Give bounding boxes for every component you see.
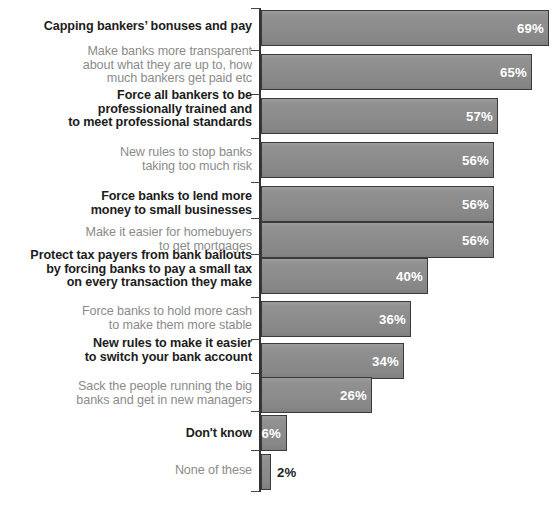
bar-value-label: 26% [340, 389, 366, 402]
category-label: Capping bankers’ bonuses and pay [0, 20, 252, 34]
bar-value-label: 56% [462, 154, 488, 167]
bar-value-label: 69% [517, 22, 543, 35]
category-label: Force banks to lend more money to small … [0, 190, 252, 217]
bar-chart: Capping bankers’ bonuses and pay69%Make … [0, 0, 558, 508]
category-label: Don't know [0, 427, 252, 441]
category-label: None of these [0, 464, 252, 478]
bar-value-label: 36% [379, 313, 405, 326]
bar-value-label: 40% [396, 270, 422, 283]
category-label: Protect tax payers from bank bailouts by… [0, 249, 252, 290]
category-label: New rules to stop banks taking too much … [0, 146, 252, 173]
bar [261, 142, 494, 178]
bar-value-label: 56% [462, 234, 488, 247]
bar-rows: Capping bankers’ bonuses and pay69%Make … [0, 0, 558, 508]
category-label: Force banks to hold more cash to make th… [0, 305, 252, 332]
bar-value-label: 57% [466, 110, 492, 123]
bar-value-label: 6% [255, 427, 281, 440]
bar-value-label: 34% [372, 355, 398, 368]
bar [261, 454, 271, 490]
bar-value-label: 56% [462, 198, 488, 211]
bar [261, 186, 494, 222]
category-label: Make banks more transparent about what t… [0, 45, 252, 86]
bar [261, 54, 532, 90]
category-label: New rules to make it easier to switch yo… [0, 337, 252, 364]
bar [261, 98, 498, 134]
bar-value-label: 65% [500, 66, 526, 79]
category-label: Force all bankers to be professionally t… [0, 89, 252, 130]
bar [261, 10, 549, 46]
category-label: Sack the people running the big banks an… [0, 380, 252, 407]
bar [261, 222, 494, 258]
bar-value-label: 2% [277, 466, 296, 479]
